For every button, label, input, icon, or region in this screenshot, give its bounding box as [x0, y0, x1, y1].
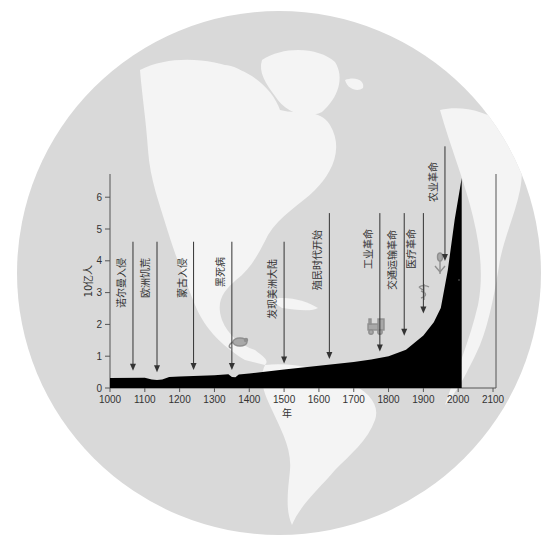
x-tick-label: 1300: [203, 394, 226, 405]
y-tick-label: 6: [96, 192, 102, 203]
event-label: 殖民时代开始: [311, 230, 323, 290]
x-tick-label: 1400: [238, 394, 261, 405]
x-tick-label: 1200: [169, 394, 192, 405]
y-tick-label: 1: [96, 351, 102, 362]
event-label: 黑死病: [214, 257, 226, 287]
y-tick-label: 3: [96, 287, 102, 298]
x-tick-label: 1900: [412, 394, 435, 405]
x-tick-label: 1500: [273, 394, 296, 405]
x-tick-label: 2100: [482, 394, 505, 405]
x-tick-label: 1700: [343, 394, 366, 405]
y-tick-label: 5: [96, 224, 102, 235]
event-label: 发现美洲大陆: [266, 259, 278, 319]
population-chart: 0123456 10亿人 100011001200130014001500160…: [0, 0, 557, 546]
x-tick-label: 1000: [99, 394, 122, 405]
x-tick-label: 1800: [377, 394, 400, 405]
event-label: 医疗革命: [405, 229, 417, 269]
x-tick-label: 2000: [447, 394, 470, 405]
globe-background: [17, 11, 541, 535]
event-label: 交通运输革命: [386, 230, 398, 290]
area-speck: [458, 279, 460, 281]
x-tick-label: 1600: [308, 394, 331, 405]
event-label: 欧洲饥荒: [139, 258, 151, 298]
y-axis-title: 10亿人: [82, 265, 94, 298]
x-tick-label: 1100: [134, 394, 156, 405]
event-label: 蒙古入侵: [176, 258, 188, 298]
event-label: 诺尔曼入侵: [115, 258, 127, 308]
event-label: 工业革命: [362, 229, 374, 269]
y-tick-label: 4: [96, 255, 102, 266]
y-tick-label: 2: [96, 319, 102, 330]
x-axis-title: 年: [282, 407, 292, 419]
event-label: 农业革命: [427, 162, 439, 202]
y-tick-label: 0: [96, 383, 102, 394]
